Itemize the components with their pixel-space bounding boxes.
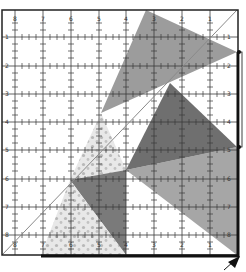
label-left-8: 8	[5, 231, 9, 238]
label-top-3: 3	[152, 15, 156, 22]
label-left-4: 4	[5, 118, 9, 125]
label-right-8: 8	[227, 231, 231, 238]
label-left-5: 5	[5, 146, 9, 153]
label-right-4: 4	[227, 118, 231, 125]
label-right-5: 5	[227, 146, 231, 153]
label-top-4: 4	[124, 15, 128, 22]
label-bottom-6: 6	[69, 241, 73, 248]
cut-point-marker-mid	[237, 145, 241, 149]
label-left-1: 1	[5, 33, 9, 40]
label-right-1: 1	[227, 33, 231, 40]
label-top-5: 5	[97, 15, 101, 22]
label-bottom-1: 1	[208, 241, 212, 248]
label-bottom-8: 8	[13, 241, 17, 248]
label-top-1: 1	[208, 15, 212, 22]
cut-direction-arrow-icon	[224, 256, 240, 270]
cut-edge-highlight	[239, 52, 242, 147]
label-top-2: 2	[180, 15, 184, 22]
label-left-2: 2	[5, 62, 9, 69]
label-bottom-3: 3	[152, 241, 156, 248]
quilt-ruler-diagram: 8 7 6 5 4 3 2 1 1 2 3 4 5 6 7 8 1 2 3 4 …	[0, 0, 246, 272]
label-bottom-5: 5	[97, 241, 101, 248]
label-bottom-7: 7	[41, 241, 45, 248]
label-left-6: 6	[5, 175, 9, 182]
label-top-8: 8	[13, 15, 17, 22]
label-top-7: 7	[41, 15, 45, 22]
label-right-7: 7	[227, 203, 231, 210]
label-bottom-4: 4	[124, 241, 128, 248]
label-right-2: 2	[227, 62, 231, 69]
label-left-7: 7	[5, 203, 9, 210]
label-left-3: 3	[5, 90, 9, 97]
label-right-3: 3	[227, 90, 231, 97]
label-bottom-2: 2	[180, 241, 184, 248]
label-right-6: 6	[227, 175, 231, 182]
label-top-6: 6	[69, 15, 73, 22]
cut-point-marker-top	[237, 50, 241, 54]
